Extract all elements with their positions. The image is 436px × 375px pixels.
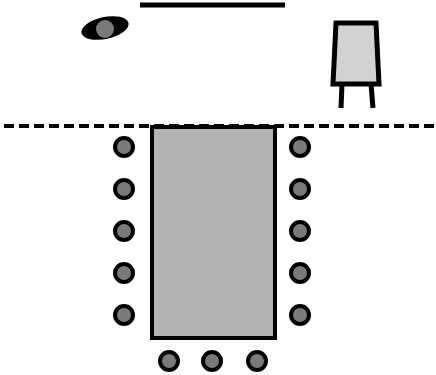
easel-board: [333, 23, 379, 84]
chair-right-1: [291, 138, 309, 156]
chair-right-4: [291, 264, 309, 282]
chair-left-5: [115, 306, 133, 324]
chair-bottom-2: [203, 352, 221, 370]
chair-left-1: [115, 138, 133, 156]
chair-bottom-1: [160, 352, 178, 370]
chairs-bottom-end: [160, 352, 266, 370]
chair-right-3: [291, 222, 309, 240]
presenter-head-icon: [96, 20, 114, 38]
conference-table: [152, 127, 275, 338]
chair-right-5: [291, 306, 309, 324]
room-layout-diagram: [0, 0, 436, 375]
chair-left-4: [115, 264, 133, 282]
room-layout-svg: [0, 0, 436, 375]
chair-left-2: [115, 180, 133, 198]
easel-leg-right: [371, 84, 373, 108]
easel-leg-left: [341, 84, 342, 108]
chair-right-2: [291, 180, 309, 198]
chair-left-3: [115, 222, 133, 240]
chair-bottom-3: [248, 352, 266, 370]
